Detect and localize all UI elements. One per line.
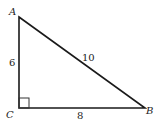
vertex-label-a: A <box>8 6 16 17</box>
side-label-ab: 10 <box>82 52 95 63</box>
right-angle-marker <box>19 98 29 108</box>
vertex-label-b: B <box>145 105 153 116</box>
side-label-cb: 8 <box>77 110 83 121</box>
side-label-ac: 6 <box>9 57 15 68</box>
triangle-diagram: A C B 6 10 8 <box>0 0 158 121</box>
vertex-label-c: C <box>6 109 14 120</box>
